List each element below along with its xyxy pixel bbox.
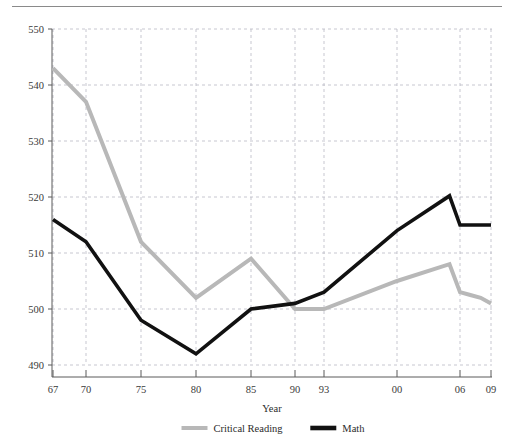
y-tick-label: 550	[28, 24, 44, 35]
x-tick-label: 90	[290, 384, 301, 395]
x-tick-label: 93	[319, 384, 330, 395]
x-axis-tick-labels: 67707580859093000609	[48, 384, 497, 395]
y-tick-label: 500	[28, 304, 44, 315]
horizontal-gridlines	[52, 29, 492, 365]
legend-label-critical-reading: Critical Reading	[214, 423, 284, 434]
legend-label-math: Math	[342, 423, 365, 434]
figure-container: 490500510520530540550 677075808590930006…	[0, 0, 514, 444]
y-tick-label: 530	[28, 136, 44, 147]
x-tick-label: 00	[392, 384, 403, 395]
x-tick-label: 67	[48, 384, 59, 395]
series-line-math	[53, 196, 491, 354]
series-line-critical-reading	[53, 68, 491, 309]
line-chart: 490500510520530540550 677075808590930006…	[0, 0, 514, 444]
axis-tickmarks	[48, 29, 491, 377]
y-tick-label: 490	[28, 360, 44, 371]
x-tick-label: 06	[455, 384, 466, 395]
x-tick-label: 09	[486, 384, 497, 395]
x-tick-label: 75	[136, 384, 147, 395]
chart-legend: Critical ReadingMath	[182, 423, 366, 434]
data-series-group	[53, 68, 491, 354]
y-tick-label: 520	[28, 192, 44, 203]
x-tick-label: 70	[81, 384, 92, 395]
y-tick-label: 510	[28, 248, 44, 259]
x-tick-label: 80	[191, 384, 202, 395]
x-axis-title: Year	[262, 403, 282, 414]
axis-lines	[52, 29, 492, 377]
plot-area-wrapper: 490500510520530540550 677075808590930006…	[0, 0, 514, 444]
y-tick-label: 540	[28, 80, 44, 91]
y-axis-tick-labels: 490500510520530540550	[28, 24, 44, 371]
x-tick-label: 85	[246, 384, 257, 395]
